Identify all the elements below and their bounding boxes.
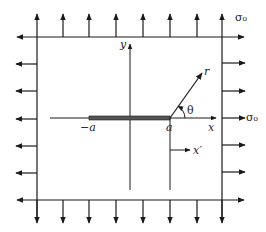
y-axis-label: y [120, 39, 126, 50]
r-vector [170, 73, 202, 118]
x-axis-label: x [208, 122, 214, 133]
theta-label: θ [187, 105, 194, 116]
left-tension-arrows [16, 64, 37, 173]
r-label: r [204, 66, 209, 77]
bottom-tension-arrows [37, 200, 222, 223]
theta-arc [178, 106, 185, 118]
crack-diagram: σ₀ σ₀ y x x′ r θ −a a [0, 0, 266, 232]
diagram-graphics [0, 0, 266, 232]
top-tension-arrows [37, 14, 222, 37]
crack [89, 116, 170, 120]
x-prime-label: x′ [193, 145, 202, 156]
right-tension-arrows [222, 63, 245, 172]
sigma-right-label: σ₀ [246, 112, 258, 123]
a-label: a [166, 122, 173, 133]
minus-a-label: −a [80, 122, 96, 133]
sigma-top-label: σ₀ [235, 12, 247, 23]
